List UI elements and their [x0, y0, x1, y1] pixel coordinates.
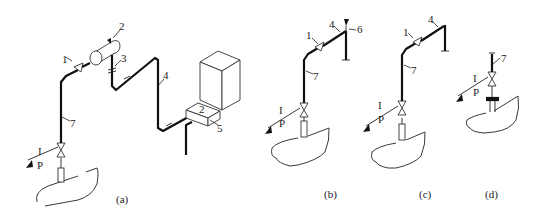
- vessel-outline-icon: [36, 168, 98, 206]
- label-I: I: [38, 145, 42, 157]
- label-P: P: [473, 86, 479, 98]
- label-3: 3: [121, 52, 127, 64]
- cabinet-icon: [200, 51, 240, 110]
- probe-stub-icon: [301, 121, 307, 137]
- panel-d: 7 I P (d): [456, 52, 519, 201]
- label-I: I: [279, 104, 283, 116]
- label-6: 6: [357, 23, 363, 35]
- probe-stub-icon: [399, 124, 405, 140]
- impulse-pipe-7: [61, 70, 78, 143]
- vessel-outline-icon: [372, 132, 426, 168]
- condenser-2-icon: [90, 38, 120, 65]
- vessel-outline-icon: [272, 128, 330, 166]
- label-P: P: [279, 117, 285, 129]
- label-P: P: [378, 113, 384, 125]
- label-2: 2: [119, 20, 125, 32]
- box-glyph: 2: [199, 103, 205, 115]
- panel-c: 1 4 7 I P (c): [363, 13, 449, 201]
- label-P: P: [37, 159, 43, 171]
- valve-icon: [57, 143, 65, 157]
- label-4: 4: [329, 18, 335, 30]
- pipe-3-4: [112, 55, 190, 131]
- caption-c: (c): [419, 188, 432, 201]
- signal-flag-icon: [26, 160, 33, 168]
- valve-icon: [398, 101, 406, 115]
- valve-icon: [488, 72, 496, 86]
- label-4: 4: [163, 69, 169, 81]
- label-7: 7: [313, 70, 319, 82]
- label-1: 1: [403, 26, 409, 38]
- label-1: 1: [306, 29, 312, 41]
- label-7: 7: [411, 64, 417, 76]
- panel-a: 2 1 2 3 4 5 7 I P (a): [26, 20, 240, 206]
- label-4: 4: [428, 13, 434, 25]
- probe-stub-icon: [58, 168, 64, 182]
- label-7: 7: [501, 52, 507, 64]
- label-1: 1: [62, 53, 68, 65]
- label-I: I: [378, 99, 382, 111]
- installation-diagram: 2 1 2 3 4 5 7 I P (a): [0, 0, 541, 220]
- caption-d: (d): [485, 188, 498, 201]
- caption-b: (b): [324, 188, 337, 201]
- label-I: I: [473, 72, 477, 84]
- label-7: 7: [70, 117, 76, 129]
- valve-icon: [300, 103, 308, 117]
- label-5: 5: [217, 122, 223, 134]
- panel-b: 1 4 6 7 I P (b): [265, 18, 363, 201]
- caption-a: (a): [116, 193, 129, 206]
- vessel-outline-icon: [466, 96, 518, 133]
